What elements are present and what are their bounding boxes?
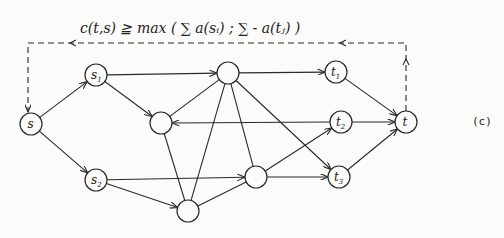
edge-c-d — [198, 182, 246, 206]
edge-s1-b — [107, 73, 217, 75]
node-s1: s1 — [85, 64, 107, 86]
node-label: s — [28, 117, 34, 131]
edge-b-d — [231, 84, 253, 167]
edge-d-t2 — [265, 128, 332, 171]
figure-caption: (c) — [472, 115, 492, 128]
node-b — [217, 62, 239, 84]
node-d — [245, 166, 267, 188]
node-label: t — [403, 115, 408, 129]
edge-s1-a — [105, 82, 152, 117]
arrowhead-icon — [403, 59, 409, 65]
edge-t2-a — [172, 122, 330, 123]
node-t1: t1 — [325, 61, 347, 83]
network-diagram: ss1s2t1t2t3t c(t,s) ≧ max ( ∑ a(sᵢ) ; ∑ … — [0, 0, 504, 238]
edge-s-s2 — [39, 131, 87, 173]
node-t2: t2 — [330, 111, 352, 133]
capacity-formula: c(t,s) ≧ max ( ∑ a(sᵢ) ; ∑ - a(tⱼ) ) — [80, 20, 300, 36]
node-s2: s2 — [85, 169, 107, 191]
edge-b-t1 — [239, 72, 325, 73]
node-t: t — [395, 111, 417, 133]
node-a — [150, 112, 172, 134]
edge-b-a — [170, 80, 219, 117]
edge-s2-d — [107, 177, 245, 180]
edge-b-c — [191, 84, 225, 201]
edge-a-c — [164, 134, 185, 201]
edge-t1-t — [345, 78, 397, 115]
node-s: s — [20, 113, 42, 135]
edge-s2-c — [106, 184, 177, 208]
node-t3: t3 — [328, 166, 350, 188]
node-c — [177, 200, 199, 222]
edge-s-s1 — [40, 82, 87, 118]
edge-t3-t — [348, 129, 398, 170]
